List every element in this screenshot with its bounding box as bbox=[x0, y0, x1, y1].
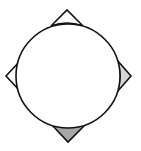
diagram bbox=[0, 0, 141, 151]
circle bbox=[16, 24, 120, 128]
